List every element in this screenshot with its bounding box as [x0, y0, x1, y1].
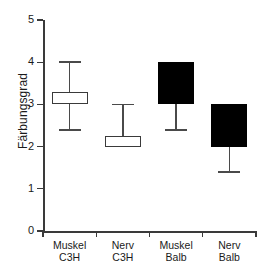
whisker-upper-cap — [59, 61, 81, 63]
x-category-label-line: Nerv — [96, 240, 149, 252]
whisker-upper-stem — [69, 62, 71, 92]
y-tick-label: 2 — [18, 141, 34, 152]
x-category-label: NervC3H — [96, 240, 149, 263]
x-category-label-line: Nerv — [203, 240, 256, 252]
whisker-lower-stem — [229, 147, 231, 172]
whisker-lower-stem — [69, 104, 71, 129]
x-category-label-line: Balb — [150, 252, 203, 264]
whisker-lower-cap — [165, 129, 187, 131]
x-category-label: NervBalb — [203, 240, 256, 263]
y-tick-mark — [37, 104, 43, 105]
x-tick-mark — [202, 231, 203, 237]
x-tick-mark — [42, 231, 43, 237]
y-tick-label: 5 — [18, 14, 34, 25]
x-category-label-line: Muskel — [43, 240, 96, 252]
y-tick-mark — [37, 62, 43, 63]
whisker-upper-stem — [122, 104, 124, 136]
box-plot-chart: Färbungsgrad 012345 MuskelC3HNervC3HMusk… — [0, 0, 269, 273]
x-category-label-line: Balb — [203, 252, 256, 264]
y-tick-label: 1 — [18, 183, 34, 194]
box-rect[interactable] — [52, 92, 88, 105]
x-tick-mark — [96, 231, 97, 237]
box-rect[interactable] — [211, 104, 247, 146]
box-rect[interactable] — [158, 62, 194, 104]
box-rect[interactable] — [105, 136, 141, 147]
whisker-lower-cap — [59, 129, 81, 131]
y-tick-mark — [37, 19, 43, 20]
y-tick-label: 4 — [18, 56, 34, 67]
y-tick-mark — [37, 146, 43, 147]
x-tick-mark — [255, 231, 256, 237]
x-category-label-line: C3H — [96, 252, 149, 264]
x-tick-mark — [149, 231, 150, 237]
x-category-label: MuskelBalb — [150, 240, 203, 263]
y-tick-label: 0 — [18, 225, 34, 236]
whisker-lower-cap — [218, 171, 240, 173]
x-category-label-line: C3H — [43, 252, 96, 264]
whisker-upper-cap — [112, 104, 134, 106]
y-tick-label: 3 — [18, 98, 34, 109]
x-category-label-line: Muskel — [150, 240, 203, 252]
x-category-label: MuskelC3H — [43, 240, 96, 263]
whisker-lower-stem — [175, 104, 177, 129]
y-axis-line — [43, 20, 45, 232]
y-tick-mark — [37, 188, 43, 189]
